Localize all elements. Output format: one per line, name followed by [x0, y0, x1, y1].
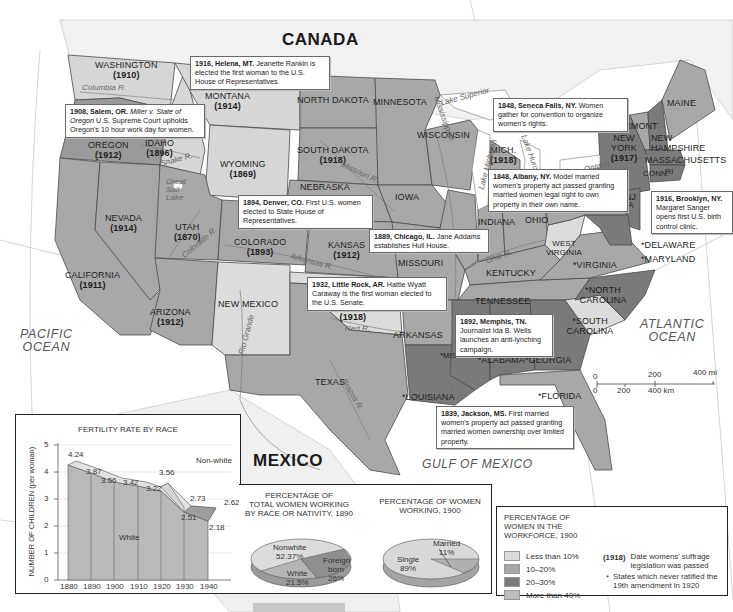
state-label-rhode-island: RI — [665, 168, 673, 177]
value-label: 3.56 — [101, 476, 117, 485]
pie1-label-nonwhite: Nonwhite52.37% — [273, 543, 306, 561]
callout-salem: 1908, Salem, OR. Miller v. State of Oreg… — [65, 104, 205, 138]
state-label-wyoming: WYOMING(1869) — [220, 159, 266, 179]
pie-charts-panel: PERCENTAGE OFTOTAL WOMEN WORKINGBY RACE … — [239, 484, 492, 594]
state-label-nevada: NEVADA(1914) — [105, 213, 142, 233]
legend-item: 10–20% — [504, 564, 580, 574]
value-label: 2.18 — [209, 523, 225, 532]
state-label-maryland: *MARYLAND — [641, 254, 695, 264]
value-label: 2.51 — [181, 513, 197, 522]
callout-brooklyn: 1916, Brooklyn, NY. Margaret Sanger open… — [651, 191, 733, 234]
swatch-more-than-40 — [504, 590, 520, 600]
legend-panel: PERCENTAGE OFWOMEN IN THEWORKFORCE, 1900… — [496, 506, 728, 596]
state-label-ohio: OHIO — [525, 215, 548, 225]
pie1-label-foreign-born: Foreign born26% — [323, 557, 349, 583]
ocean-label-atlantic: ATLANTICOCEAN — [640, 318, 704, 344]
callout-denver: 1894, Denver, CO. First U.S. women elect… — [238, 195, 373, 229]
footer-bar — [253, 603, 345, 612]
state-label-massachusetts: MASSACHUSETTS — [645, 155, 726, 165]
callout-memphis: 1892, Memphis, TN. Journalist Ida B. Wel… — [455, 314, 553, 357]
state-label-minnesota: MINNESOTA — [373, 97, 427, 107]
ocean-label-gulf: GULF OF MEXICO — [422, 458, 533, 471]
y-axis-label: NUMBER OF CHILDREN (per woman) — [27, 437, 36, 587]
river-label-red: Red R. — [345, 324, 370, 333]
pie2-label-married: Married11% — [433, 539, 460, 557]
state-label-new-hampshire: NEW HAMPSHIRE — [651, 133, 707, 153]
legend-item: Less than 10% — [504, 551, 580, 561]
lake-label-great-salt: Great Salt Lake — [166, 178, 196, 202]
country-label-mexico: MEXICO — [253, 451, 323, 471]
series-label-nonwhite: Non-white — [196, 456, 232, 465]
state-label-south-dakota: SOUTH DAKOTA(1918) — [297, 145, 369, 165]
state-label-washington: WASHINGTON(1910) — [95, 60, 158, 80]
value-label: 3.56 — [159, 468, 175, 477]
state-label-louisiana: *LOUISIANA — [402, 392, 455, 402]
callout-jackson: 1839, Jackson, MS. First married women's… — [436, 406, 574, 449]
state-arizona — [150, 258, 218, 345]
state-label-oregon: OREGON(1912) — [88, 140, 129, 160]
swatch-20-30 — [504, 577, 520, 587]
state-label-kansas: KANSAS(1912) — [328, 240, 365, 260]
legend-title: PERCENTAGE OFWOMEN IN THEWORKFORCE, 1900 — [504, 514, 577, 541]
ocean-label-pacific: PACIFICOCEAN — [20, 328, 73, 354]
legend-item: More than 40% — [504, 590, 580, 600]
value-label: 3.87 — [86, 467, 102, 476]
callout-helena: 1916, Helena, MT. Jeanette Rankin is ele… — [190, 56, 330, 90]
value-label: 4.24 — [68, 450, 84, 459]
fertility-chart-panel: FERTILITY RATE BY RACE 5 — [15, 414, 241, 594]
state-label-virginia: *VIRGINIA — [573, 260, 617, 270]
state-label-north-dakota: NORTH DAKOTA — [297, 95, 369, 105]
state-label-delaware: *DELAWARE — [641, 240, 695, 250]
callout-seneca-falls: 1848, Seneca Falls, NY. Women gather for… — [493, 98, 628, 132]
fertility-chart — [16, 415, 240, 593]
pie2-label-single: Single89% — [397, 555, 419, 573]
state-label-tennessee: TENNESSEE — [475, 296, 530, 306]
value-label: 2.62 — [224, 498, 240, 507]
state-label-california: CALIFORNIA(1911) — [65, 270, 120, 290]
callout-albany: 1848, Albany, NY. Model married women's … — [488, 169, 628, 212]
legend-note-ratified: *States which never ratified the 19th am… — [606, 573, 721, 591]
state-label-florida: *FLORIDA — [538, 391, 581, 401]
state-label-kentucky: KENTUCKY — [486, 268, 536, 278]
river-label-columbia: Columbia R. — [82, 83, 126, 92]
state-label-colorado: COLORADO(1893) — [234, 237, 286, 257]
callout-chicago: 1889, Chicago, IL. Jane Addams establish… — [369, 229, 489, 253]
state-label-maine: MAINE — [667, 98, 696, 108]
state-label-arizona: ARIZONA(1912) — [150, 307, 191, 327]
value-label: 3.42 — [123, 478, 139, 487]
state-label-missouri: MISSOURI — [398, 258, 443, 268]
country-label-canada: CANADA — [282, 30, 359, 50]
state-label-new-mexico: NEW MEXICO — [218, 299, 278, 309]
state-label-indiana: INDIANA — [478, 217, 515, 227]
pie1-label-white: White21.5% — [286, 569, 309, 587]
state-label-nebraska: NEBRASKA — [300, 182, 350, 192]
state-label-south-carolina: *SOUTH CAROLINA — [560, 316, 620, 336]
state-label-iowa: IOWA — [395, 192, 419, 202]
swatch-less-than-10 — [504, 551, 520, 561]
state-label-north-carolina: *NORTH CAROLINA — [573, 285, 633, 305]
callout-little-rock: 1932, Little Rock, AR. Hattie Wyatt Cara… — [307, 277, 447, 311]
legend-note-suffrage: (1918)Date womens' suffrage legislation … — [603, 553, 719, 571]
state-label-montana: MONTANA(1914) — [205, 91, 250, 111]
state-label-arkansas: ARKANSAS — [393, 330, 443, 340]
series-label-white: White — [119, 533, 139, 542]
legend-swatches: Less than 10% 10–20% 20–30% More than 40… — [504, 551, 580, 603]
state-label-west-virginia: WEST VIRGINIA — [545, 240, 583, 258]
state-label-idaho: IDAHO(1896) — [145, 138, 174, 158]
legend-item: 20–30% — [504, 577, 580, 587]
value-label: 3.22 — [146, 484, 162, 493]
swatch-10-20 — [504, 564, 520, 574]
value-label: 2.73 — [190, 494, 206, 503]
state-label-new-york: NEW YORK(1917) — [605, 133, 643, 163]
